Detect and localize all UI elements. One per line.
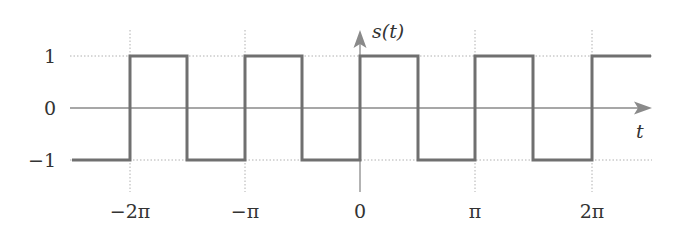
x-tick-label: 2π bbox=[580, 200, 605, 222]
x-tick-label: −2π bbox=[110, 200, 151, 222]
y-tick-label: 1 bbox=[44, 45, 56, 67]
y-tick-label: −1 bbox=[28, 149, 56, 171]
x-tick-label: −π bbox=[231, 200, 259, 222]
x-tick-label: π bbox=[469, 200, 482, 222]
y-axis-label: s(t) bbox=[372, 20, 404, 42]
square-wave-chart: 1 0 −1 −2π −π 0 π 2π s(t) t bbox=[0, 0, 684, 234]
y-tick-label: 0 bbox=[44, 97, 56, 119]
x-axis-label: t bbox=[636, 120, 644, 142]
x-tick-label: 0 bbox=[354, 200, 366, 222]
